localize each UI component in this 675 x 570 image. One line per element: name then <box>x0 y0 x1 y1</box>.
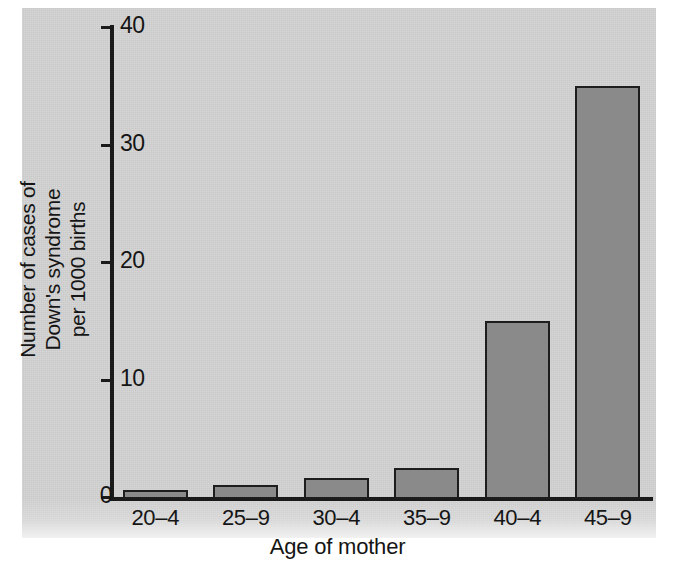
x-axis-line <box>110 497 653 501</box>
y-tick-label-20: 20 <box>120 247 145 274</box>
bar-20-4 <box>123 490 188 499</box>
y-tick-label-10: 10 <box>120 365 145 392</box>
x-tick-label-25-9: 25–9 <box>201 505 292 531</box>
y-tick-10 <box>101 379 111 382</box>
y-tick-20 <box>101 261 111 264</box>
bar-40-4 <box>485 321 550 499</box>
x-tick-label-20-4: 20–4 <box>110 505 201 531</box>
y-axis-title: Number of cases of Down's syndrome per 1… <box>15 130 90 410</box>
y-tick-label-40: 40 <box>120 12 145 39</box>
bar-45-9 <box>575 86 640 499</box>
x-tick-label-35-9: 35–9 <box>382 505 473 531</box>
bar-chart: 0 10 20 30 40 20–4 25–9 30–4 35–9 40–4 4… <box>0 0 675 570</box>
x-tick-label-30-4: 30–4 <box>291 505 382 531</box>
bar-35-9 <box>394 468 459 499</box>
bar-25-9 <box>213 485 278 499</box>
figure-canvas: 0 10 20 30 40 20–4 25–9 30–4 35–9 40–4 4… <box>0 0 675 570</box>
y-tick-label-30: 30 <box>120 130 145 157</box>
y-tick-30 <box>101 144 111 147</box>
bar-30-4 <box>304 478 369 499</box>
x-tick-label-40-4: 40–4 <box>472 505 563 531</box>
y-tick-40 <box>101 26 111 29</box>
x-tick-label-45-9: 45–9 <box>563 505 654 531</box>
x-axis-title: Age of mother <box>0 534 675 560</box>
